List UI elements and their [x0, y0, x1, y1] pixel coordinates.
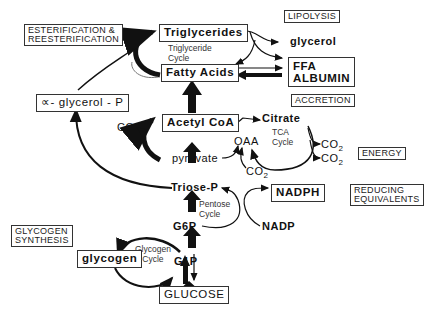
energy-label: ENERGY — [358, 147, 406, 160]
reducing-line-2: EQUIVALENTS — [354, 195, 420, 204]
ffa-albumin-node: FFA ALBUMIN — [288, 57, 355, 87]
tca-line-2: Cycle — [272, 138, 293, 148]
pentose-cycle-label: Pentose Cycle — [199, 200, 230, 220]
glycogen-synthesis-line-2: SYNTHESIS — [15, 236, 69, 245]
co2-sub: 2 — [339, 158, 344, 167]
co2-text: CO — [321, 138, 339, 150]
esterification-line-2: REESTERIFICATION — [28, 35, 119, 44]
co2-sub: 2 — [264, 171, 269, 180]
glucose-node: GLUCOSE — [159, 286, 229, 304]
triglyceride-cycle-line-2: Cycle — [168, 54, 212, 64]
albumin-line: ALBUMIN — [293, 72, 350, 84]
co2-text: CO — [246, 165, 264, 177]
arrow-triglycerides-to-fattyacids — [236, 40, 255, 64]
triglyceride-cycle-label: Triglyceride Cycle — [168, 44, 212, 64]
fatty-acids-node: Fatty Acids — [161, 64, 239, 82]
glycogen-node: glycogen — [77, 250, 142, 268]
arrow-triglycerides-to-ffa — [250, 32, 282, 58]
ffa-line: FFA — [293, 60, 350, 72]
lipolysis-label: LIPOLYSIS — [284, 10, 340, 23]
co2-sub: 2 — [135, 127, 140, 136]
citrate-node: Citrate — [262, 113, 300, 124]
arrow-glycogen-to-g1p — [115, 268, 172, 287]
glycerol-node: glycerol — [290, 36, 336, 47]
triglycerides-node: Triglycerides — [159, 24, 248, 42]
nadp-node: NADP — [262, 221, 295, 232]
accretion-label: ACCRETION — [291, 94, 355, 107]
co2-text: CO — [117, 121, 135, 133]
arrow-pyruvate-curve — [144, 120, 160, 160]
co2-tca-2: CO2 — [321, 153, 343, 167]
arrow-acetylcoa-to-fattyacids — [182, 80, 202, 113]
co2-pyruvate: CO2 — [117, 122, 139, 136]
alpha-glycerol-p-node: ∝- glycerol - P — [36, 94, 129, 112]
co2-oaa: CO2 — [246, 166, 268, 180]
arrow-fattyacids-to-triglycerides — [136, 32, 160, 75]
tca-cycle-label: TCA Cycle — [272, 128, 293, 148]
acetyl-coa-node: Acetyl CoA — [162, 114, 239, 132]
arrow-pyruvate-to-oaa — [222, 146, 238, 158]
arrow-ffa-to-fattyacids — [236, 70, 282, 80]
nadph-node: NADPH — [271, 184, 325, 202]
arrow-glycerolp-to-triglycerides — [78, 48, 135, 90]
co2-text: CO — [321, 152, 339, 164]
co2-sub: 2 — [339, 144, 344, 153]
g1p-node: G1P — [174, 256, 198, 267]
glycogen-synthesis-label: GLYCOGEN SYNTHESIS — [11, 225, 73, 247]
oaa-node: OAA — [234, 136, 259, 147]
reducing-equivalents-label: REDUCING EQUIVALENTS — [350, 184, 424, 206]
g6p-node: G6P — [173, 221, 197, 232]
triose-p-node: Triose-P — [171, 182, 218, 193]
esterification-label: ESTERIFICATION & REESTERIFICATION — [24, 24, 123, 46]
pentose-line-2: Cycle — [199, 210, 230, 220]
pyruvate-node: pyruvate — [172, 153, 218, 164]
